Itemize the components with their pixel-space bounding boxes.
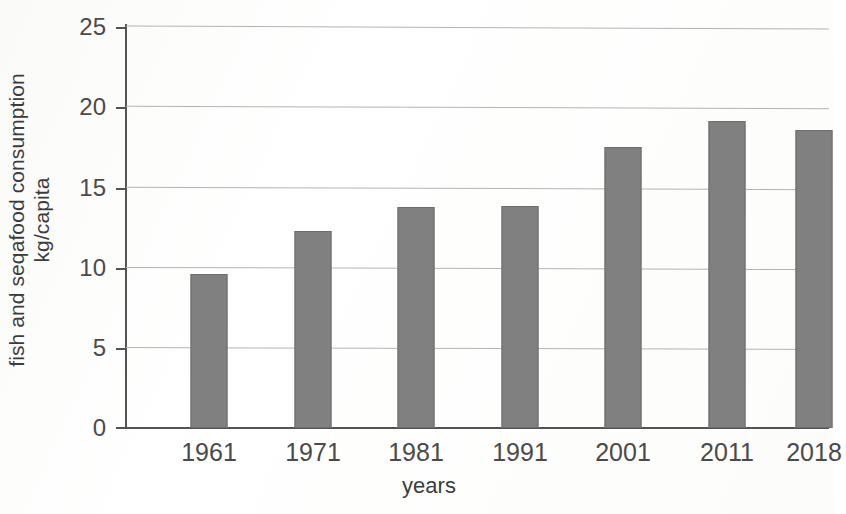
y-axis-title-line1: fish and seqafood consumption [4, 73, 29, 367]
x-tick-label-2001: 2001 [595, 438, 651, 466]
bar-slot-2011 [691, 27, 763, 428]
bar-slot-1981 [380, 27, 452, 428]
x-tick-label-2011: 2011 [700, 438, 754, 466]
y-tick-label-20: 20 [60, 95, 106, 119]
bar-1981[interactable] [398, 207, 435, 428]
y-tick-label-0: 0 [60, 416, 106, 440]
x-axis-title: years [0, 473, 834, 499]
y-tick-label-15: 15 [60, 176, 106, 200]
bar-slot-2018 [763, 27, 846, 428]
bar-slot-1971 [277, 27, 349, 428]
y-tick-label-25: 25 [60, 15, 106, 39]
bar-slot-1961 [173, 27, 245, 428]
bar-slot-1991 [484, 27, 556, 428]
x-tick-label-1961: 1961 [181, 438, 237, 466]
bar-1961[interactable] [191, 274, 228, 428]
x-tick-label-1981: 1981 [388, 438, 444, 466]
y-axis-title: fish and seqafood consumption kg/capita [0, 0, 58, 440]
bar-slot-2001 [587, 27, 659, 428]
x-tick-label-1991: 1991 [492, 438, 548, 466]
y-axis-title-line2: kg/capita [29, 73, 54, 367]
bar-2018[interactable] [796, 130, 833, 428]
bar-1991[interactable] [502, 206, 539, 428]
bar-series [125, 27, 829, 428]
y-tick-label-10: 10 [60, 256, 106, 280]
plot-area [125, 27, 829, 428]
x-tick-label-2018: 2018 [786, 438, 842, 466]
x-tick-label-1971: 1971 [285, 438, 341, 466]
x-axis-title-text: years [402, 473, 456, 499]
y-tick-label-5: 5 [60, 336, 106, 360]
bar-2011[interactable] [709, 121, 746, 428]
bar-2001[interactable] [605, 147, 642, 428]
bar-1971[interactable] [295, 231, 332, 428]
